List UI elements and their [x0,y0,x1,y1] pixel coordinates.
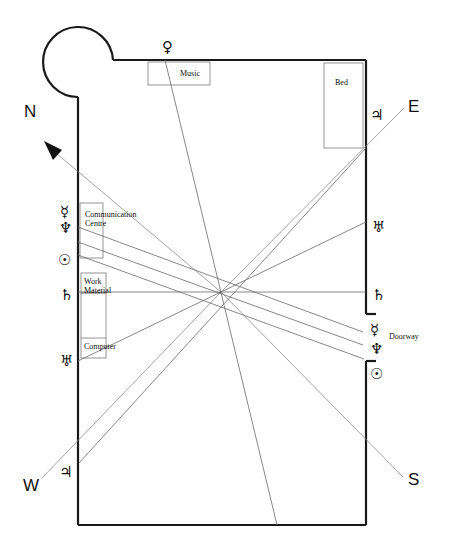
sun-icon-right: ☉ [370,365,383,383]
communication-label-line2: Centre [85,219,107,228]
jupiter-ray [79,148,366,463]
uranus-icon-right: ♅ [372,218,385,236]
compass-north-label: N [24,102,36,121]
uranus-icon-left: ♅ [60,352,73,370]
jupiter-icon-left: ♃ [59,463,72,481]
saturn-icon-left: ♄ [60,286,73,304]
compass-east-label: E [408,97,419,116]
mercury-icon-right: ☿ [370,321,379,339]
music-label: Music [180,69,200,78]
north-ray [56,153,221,292]
bed-box [324,63,363,148]
doorway-label: Doorway [389,332,419,341]
mercury-ray [78,227,363,332]
compass-west-label: W [23,476,39,495]
room-walls [43,27,376,525]
east-ray [221,108,404,292]
neptune-icon-left: ♆ [59,219,72,237]
communication-label-line1: Communication [85,210,137,219]
saturn-icon-right: ♄ [372,286,385,304]
computer-label: Computer [84,342,116,351]
jupiter-icon-right: ♃ [370,106,383,124]
sun-ray [78,255,364,359]
south-ray [221,292,403,477]
venus-icon: ♀ [162,38,173,56]
bed-label: Bed [335,78,348,87]
neptune-icon-right: ♆ [370,340,383,358]
compass-south-label: S [408,470,419,489]
work-label-line1: Work [84,277,102,286]
music-box [148,62,210,85]
work-label-line2: Material [84,286,112,295]
west-ray [42,292,221,478]
sun-icon-left: ☉ [58,251,71,269]
north-arrow-head [44,141,62,160]
neptune-ray [78,242,363,345]
floor-plan-diagram: N E S W Music Bed Communication Centre W… [0,0,449,552]
bay-window-arc [43,27,113,97]
